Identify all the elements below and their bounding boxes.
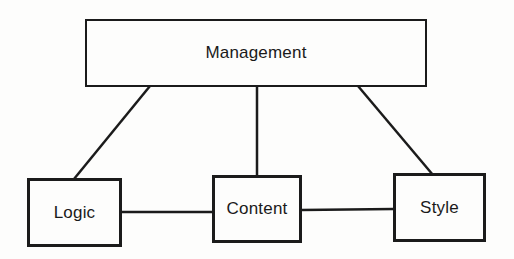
edge-content-style xyxy=(301,209,394,210)
node-style: Style xyxy=(393,173,486,242)
node-content: Content xyxy=(212,175,302,243)
node-style-label: Style xyxy=(420,198,459,218)
edge-management-style xyxy=(358,86,433,175)
node-management-label: Management xyxy=(205,43,306,63)
node-logic: Logic xyxy=(27,178,122,247)
diagram-canvas: Management Logic Content Style xyxy=(0,0,514,259)
edge-management-logic xyxy=(74,86,150,179)
node-logic-label: Logic xyxy=(54,203,96,223)
node-management: Management xyxy=(85,19,427,87)
node-content-label: Content xyxy=(227,199,288,219)
